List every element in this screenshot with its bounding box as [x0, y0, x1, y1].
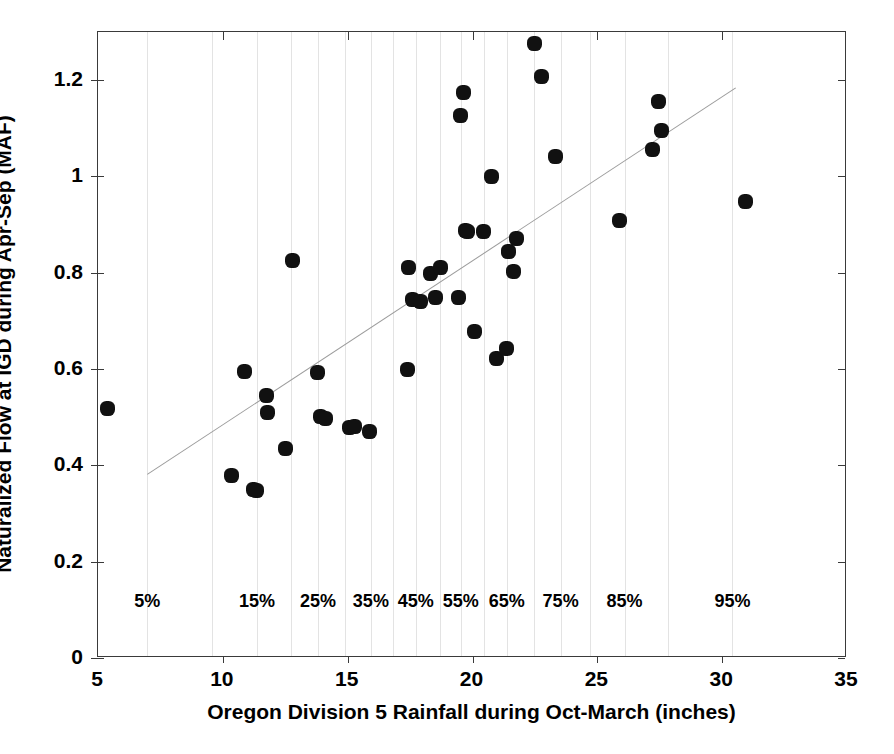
x-axis-tick-labels: 5101520253035 — [0, 0, 894, 754]
x-tick-label: 25 — [585, 667, 608, 691]
x-tick-label: 20 — [460, 667, 483, 691]
x-tick-label: 10 — [210, 667, 233, 691]
x-tick-label: 5 — [91, 667, 103, 691]
scatter-plot-figure: 5%15%25%35%45%55%65%75%85%95% 00.20.40.6… — [0, 0, 894, 754]
y-axis-title: Naturalized Flow at IGD during Apr-Sep (… — [0, 115, 16, 573]
x-tick-label: 30 — [709, 667, 732, 691]
x-tick-label: 15 — [335, 667, 358, 691]
x-axis-title: Oregon Division 5 Rainfall during Oct-Ma… — [97, 700, 846, 724]
x-tick-label: 35 — [834, 667, 857, 691]
